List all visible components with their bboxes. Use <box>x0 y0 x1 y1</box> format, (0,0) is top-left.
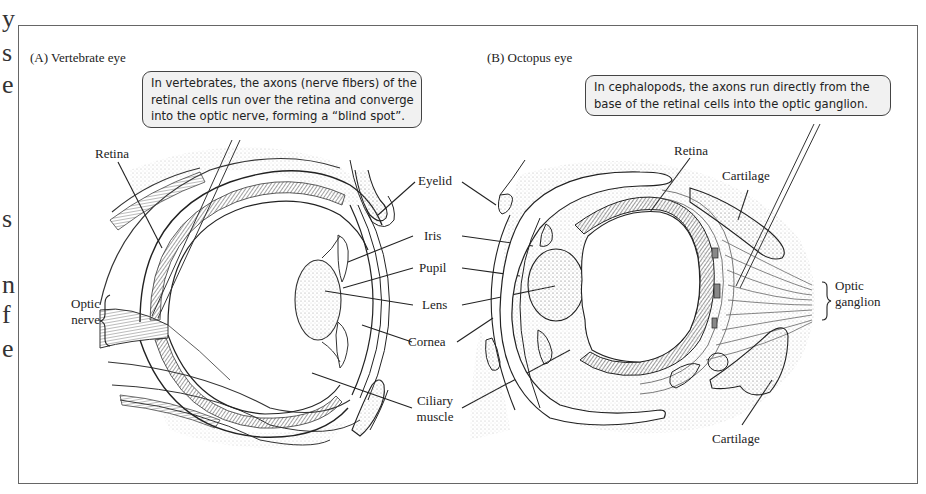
label-cartilage-top: Cartilage <box>722 168 770 183</box>
label-retina-a: Retina <box>95 146 129 161</box>
callout-line: retinal cells run over the retina and co… <box>151 92 413 109</box>
callout-line: In cephalopods, the axons run directly f… <box>594 79 882 96</box>
callout-line: into the optic nerve, forming a “blind s… <box>151 108 413 125</box>
label-optic-nerve: Optic <box>60 296 100 311</box>
panel-b-title: (B) Octopus eye <box>487 50 572 66</box>
label-optic-ganglion: Optic <box>835 278 864 293</box>
label-optic-nerve: nerve <box>60 312 100 327</box>
label-optic-ganglion: ganglion <box>835 294 881 309</box>
callout-line: base of the retinal cells into the optic… <box>594 96 882 113</box>
label-ciliary-muscle: muscle <box>411 409 459 424</box>
label-cartilage-bottom: Cartilage <box>712 431 760 446</box>
label-retina-b: Retina <box>674 143 708 158</box>
callout-vertebrate: In vertebrates, the axons (nerve fibers)… <box>142 71 422 128</box>
label-eyelid: Eyelid <box>418 173 452 188</box>
callout-octopus: In cephalopods, the axons run directly f… <box>585 75 891 116</box>
label-ciliary-muscle: Ciliary <box>411 393 459 408</box>
label-lens: Lens <box>422 297 447 312</box>
vertebrate-eye-drawing <box>100 140 394 448</box>
label-pupil: Pupil <box>419 260 446 275</box>
panel-a-title: (A) Vertebrate eye <box>30 50 126 66</box>
label-cornea: Cornea <box>408 334 446 349</box>
label-iris: Iris <box>424 228 441 243</box>
callout-line: In vertebrates, the axons (nerve fibers)… <box>151 75 413 92</box>
